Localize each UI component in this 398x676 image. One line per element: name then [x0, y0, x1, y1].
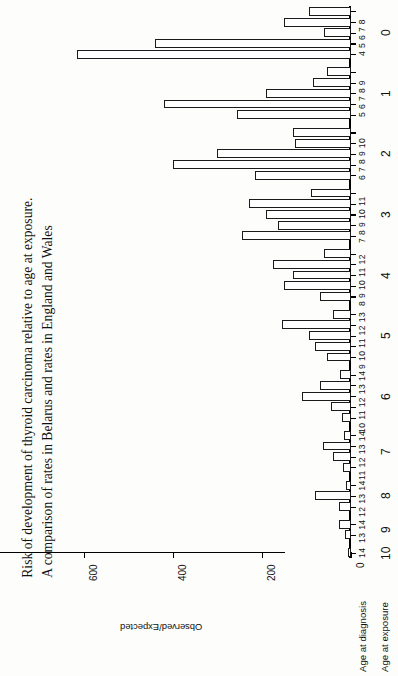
- bar: [173, 160, 351, 169]
- exposure-age-label: 3: [379, 211, 393, 218]
- bar: [315, 491, 351, 500]
- bar: [309, 7, 351, 16]
- bar: [320, 292, 351, 301]
- category-tick: [351, 524, 356, 525]
- chart-title: Risk of development of thyroid carcinoma…: [18, 0, 57, 578]
- category-tick: [351, 446, 356, 447]
- category-tick: [351, 286, 356, 287]
- bar: [302, 392, 351, 401]
- bar: [77, 50, 351, 59]
- category-tick: [351, 485, 356, 486]
- category-tick: [351, 83, 356, 84]
- value-tick-label: 600: [88, 564, 99, 581]
- bar: [339, 502, 351, 511]
- diagnosis-age-group-label: 6 7 8 9 10: [357, 138, 367, 180]
- category-tick: [351, 72, 356, 73]
- exposure-age-label: 2: [379, 151, 393, 158]
- bar: [293, 128, 351, 137]
- bar: [327, 353, 351, 362]
- bar: [309, 331, 351, 340]
- category-tick: [351, 264, 356, 265]
- value-tick: [262, 552, 263, 558]
- category-tick: [351, 346, 356, 347]
- bar: [282, 320, 351, 329]
- bar: [324, 28, 351, 37]
- bar: [242, 231, 351, 240]
- category-tick: [351, 104, 356, 105]
- category-tick: [351, 396, 356, 397]
- exposure-age-label: 7: [379, 448, 393, 455]
- value-tick: [84, 552, 85, 558]
- diagnosis-age-group-label: 11 12 13 14: [357, 431, 367, 480]
- category-tick: [351, 254, 356, 255]
- category-tick: [351, 535, 356, 536]
- category-tick: [351, 275, 356, 276]
- category-tick: [351, 193, 356, 194]
- bar: [339, 520, 351, 529]
- exposure-age-label: 8: [379, 493, 393, 500]
- category-tick: [351, 175, 356, 176]
- diagnosis-age-group-label: 10 11 12 13 14: [357, 370, 367, 432]
- diagnosis-age-group-label: 12 13 14: [357, 480, 367, 517]
- category-tick: [351, 214, 356, 215]
- exposure-axis-caption: Age at exposure: [379, 602, 390, 672]
- bar: [249, 199, 351, 208]
- category-tick: [351, 33, 356, 34]
- category-tick: [351, 143, 356, 144]
- value-tick: [173, 552, 174, 558]
- category-tick: [351, 22, 356, 23]
- bar: [323, 442, 351, 451]
- category-tick: [351, 225, 356, 226]
- category-tick: [351, 165, 356, 166]
- category-tick: [351, 496, 356, 497]
- exposure-age-label: 6: [379, 393, 393, 400]
- bar: [315, 342, 351, 351]
- bar: [320, 381, 351, 390]
- category-tick: [351, 314, 356, 315]
- diagnosis-axis-caption: Age at diagnosis: [357, 601, 368, 672]
- bar: [331, 402, 351, 411]
- category-tick: [351, 115, 356, 116]
- exposure-age-label: 0: [379, 30, 393, 37]
- bar: [311, 189, 351, 198]
- diagnosis-age-group-label: 8 9 10 11 12: [357, 254, 367, 306]
- chart-title-line-2: A comparison of rates in Belarus and rat…: [38, 0, 58, 578]
- bar: [342, 413, 351, 422]
- chart-title-line-1: Risk of development of thyroid carcinoma…: [18, 0, 38, 578]
- category-tick: [351, 325, 356, 326]
- diagnosis-age-group-label: 14: [357, 547, 367, 557]
- bar: [284, 18, 351, 27]
- category-tick: [351, 385, 356, 386]
- category-tick: [351, 11, 356, 12]
- diagnosis-age-group-label: 9 10 11 12 13: [357, 312, 367, 369]
- bar: [217, 149, 351, 158]
- bar: [327, 67, 351, 76]
- bar: [278, 221, 351, 230]
- bar: [340, 370, 351, 379]
- bar: [295, 139, 351, 148]
- category-tick: [351, 407, 356, 408]
- bar: [155, 39, 351, 48]
- value-tick-label: 0: [355, 563, 366, 569]
- category-tick: [351, 204, 356, 205]
- category-tick: [351, 54, 356, 55]
- category-tick: [351, 507, 356, 508]
- diagnosis-age-group-label: 13 14: [357, 519, 367, 543]
- plot-area: [66, 6, 351, 558]
- category-tick: [351, 336, 356, 337]
- bar: [237, 110, 351, 119]
- exposure-age-label: 9: [379, 526, 393, 533]
- category-tick: [351, 43, 356, 44]
- category-tick: [351, 154, 356, 155]
- category-tick: [351, 375, 356, 376]
- diagnosis-age-group-label: 5 6 7 8 9: [357, 80, 367, 117]
- diagnosis-age-group-label: 4 5 6 7 8: [357, 19, 367, 56]
- exposure-age-label: 5: [379, 332, 393, 339]
- bar: [344, 431, 351, 440]
- value-axis-line: [0, 552, 285, 553]
- bar: [333, 452, 351, 461]
- exposure-age-label: 1: [379, 90, 393, 97]
- category-tick: [351, 236, 356, 237]
- value-tick-label: 400: [177, 564, 188, 581]
- diagnosis-age-group-label: 7 8 9 10 11: [357, 196, 367, 243]
